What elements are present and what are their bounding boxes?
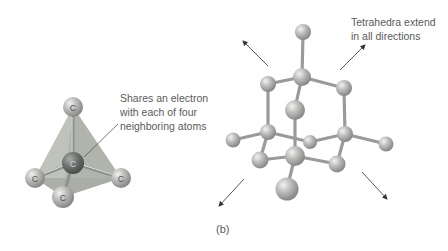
tetrahedron-annotation: Shares an electron with each of four nei… — [120, 91, 208, 133]
lattice-atom-top — [295, 24, 311, 40]
annotation-line: with each of four — [120, 105, 208, 119]
lattice-atom-mid-left — [260, 124, 276, 140]
svg-text:C: C — [60, 193, 67, 203]
lattice-atom-upper-left — [260, 76, 276, 92]
lattice-atom-upper-center — [293, 68, 311, 86]
lattice-atom-far-right — [379, 137, 394, 152]
lattice-atom-lower-center — [285, 146, 305, 166]
atom-center: C — [62, 152, 84, 174]
annotation-line: Shares an electron — [120, 91, 208, 105]
svg-text:C: C — [70, 103, 77, 113]
lattice-atom-lower-left — [252, 152, 269, 169]
annotation-line: neighboring atoms — [120, 119, 208, 133]
carbon-tetrahedron: C C C C C — [25, 97, 131, 208]
lattice-atom-upper-right — [336, 80, 352, 96]
svg-text:C: C — [118, 174, 125, 184]
lattice-atom-front-upper — [285, 100, 305, 120]
lattice-atom-lower-right — [329, 156, 346, 173]
atom-left: C — [25, 168, 45, 188]
annotation-line: Tetrahedra extend — [351, 15, 436, 29]
atom-bottom: C — [52, 186, 74, 208]
arrow-down-left — [219, 179, 244, 206]
svg-text:C: C — [70, 159, 77, 169]
arrow-up-left — [243, 41, 268, 66]
lattice-atom-back-middle — [303, 135, 317, 149]
atom-right: C — [111, 168, 131, 188]
panel-label: (b) — [216, 222, 229, 236]
annotation-line: in all directions — [351, 29, 436, 43]
atom-top: C — [63, 97, 83, 117]
figure: C C C C C — [0, 0, 448, 251]
lattice-atom-mid-right — [337, 126, 353, 142]
arrow-up-right — [340, 45, 365, 70]
lattice-atom-far-left — [226, 133, 241, 148]
arrow-down-right — [362, 172, 387, 199]
svg-text:C: C — [32, 174, 39, 184]
diamond-lattice — [219, 24, 394, 206]
tetra-face-bottom — [35, 178, 121, 197]
lattice-atom-bottom — [276, 178, 299, 201]
lattice-annotation: Tetrahedra extend in all directions — [351, 15, 436, 43]
